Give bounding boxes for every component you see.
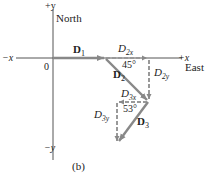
vector-diagram: +y North −x 0 +x East −y D1 D2x D2y D2 4… <box>0 0 212 174</box>
plus-y-label: +y <box>45 0 56 11</box>
minus-x-label: −x <box>2 52 14 63</box>
angle-45-label: 45° <box>122 59 136 70</box>
minus-y-label: −y <box>44 142 56 153</box>
d2-label: D2 <box>113 68 125 83</box>
d2y-label: D2y <box>153 66 170 81</box>
panel-label: (b) <box>72 160 85 173</box>
d3x-label: D3x <box>120 87 137 102</box>
north-label: North <box>56 12 82 24</box>
d1-label: D1 <box>73 43 85 58</box>
angle-53-label: 53° <box>123 103 137 114</box>
d3-label: D3 <box>137 115 149 130</box>
d2x-label: D2x <box>117 42 134 57</box>
origin-label: 0 <box>44 61 49 72</box>
east-label: East <box>185 61 204 73</box>
d3y-label: D3y <box>93 108 110 123</box>
